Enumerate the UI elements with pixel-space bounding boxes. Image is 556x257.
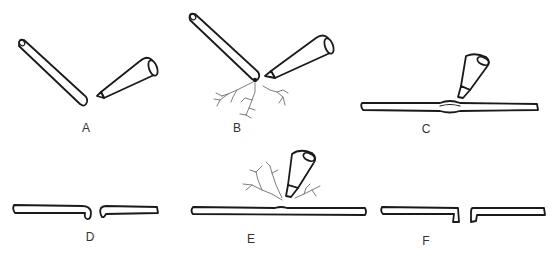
micropipette [458,54,490,98]
panel-label-c: C [422,123,431,135]
micropipette [97,58,159,98]
panel-d [13,205,158,219]
severed-fiber-left [13,205,91,219]
fiber-horizontal-indented [192,207,367,215]
panel-label-b: B [233,122,241,134]
panel-c [361,54,538,112]
panel-a [18,39,159,105]
branching-processes [214,82,288,118]
severed-fiber-right [471,208,545,222]
panel-label-a: A [82,122,90,134]
fiber-angled [189,13,259,82]
fiber-horizontal-indented [361,101,538,113]
micropipette [265,36,335,79]
panel-label-d: D [86,231,95,243]
panel-label-e: E [247,233,255,245]
panel-f [381,207,545,222]
panel-b [189,13,335,118]
severed-fiber-right [100,206,158,217]
fiber-angled [18,39,87,105]
panel-label-f: F [422,235,429,247]
severed-fiber-left [381,207,459,222]
panel-e [192,151,367,215]
